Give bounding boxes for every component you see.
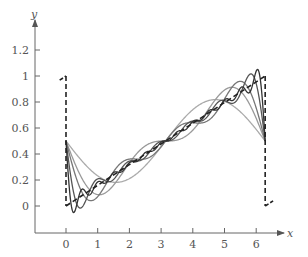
y-tick-label: 0.8 [12,96,30,109]
x-tick-label: 3 [158,238,165,251]
partial-sum-curve [66,69,265,212]
x-ticks: 0123456 [63,228,260,251]
y-tick-label: 1.2 [12,44,30,57]
x-tick-label: 6 [253,238,260,251]
function-next-period-stub [265,201,273,206]
y-ticks: 00.20.40.60.811.2 [12,44,41,213]
x-tick-label: 1 [94,238,101,251]
fourier-series-chart: y x 00.20.40.60.811.2 0123456 [0,0,308,257]
x-tick-label: 5 [221,238,228,251]
function-prev-period-stub [60,76,66,80]
x-tick-label: 2 [126,238,133,251]
x-tick-label: 4 [189,238,196,251]
y-tick-label: 0.2 [12,174,30,187]
y-tick-label: 0.4 [12,148,30,161]
partial-sum-curves [66,69,265,212]
axes: y x [30,8,294,240]
y-tick-label: 0.6 [12,122,30,135]
y-axis-label: y [30,8,38,21]
y-tick-label: 0 [22,200,29,213]
x-tick-label: 0 [63,238,70,251]
x-axis-label: x [287,227,294,240]
y-tick-label: 1 [22,70,29,83]
